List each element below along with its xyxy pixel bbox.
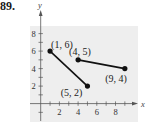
point-label: (4, 5) xyxy=(69,46,91,58)
y-tick-label: 6 xyxy=(31,46,35,56)
x-tick-label: 2 xyxy=(57,107,61,117)
point-label: (9, 4) xyxy=(105,73,127,85)
data-point xyxy=(76,57,81,62)
y-tick-label: 4 xyxy=(31,64,36,74)
coordinate-plot: y x 24682468 (1, 6)(5, 2)(4, 5)(9, 4) xyxy=(0,0,151,127)
y-axis-label: y xyxy=(37,0,42,10)
y-axis-arrow-icon xyxy=(39,10,43,16)
x-axis-label: x xyxy=(140,99,145,109)
y-tick-label: 2 xyxy=(31,81,35,91)
x-tick-label: 6 xyxy=(95,107,99,117)
data-point xyxy=(85,84,90,89)
y-tick-label: 8 xyxy=(31,29,35,39)
x-tick-label: 8 xyxy=(113,107,117,117)
point-label: (5, 2) xyxy=(61,87,83,99)
x-tick-label: 4 xyxy=(76,107,81,117)
data-point xyxy=(122,66,127,71)
